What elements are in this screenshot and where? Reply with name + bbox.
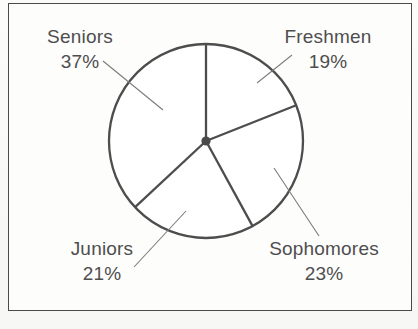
pie-center-dot xyxy=(201,136,210,145)
pie-chart-figure: Seniors 37% Freshmen 19% Juniors 21% Sop… xyxy=(0,0,418,329)
slice-label-freshmen-percent: 19% xyxy=(266,49,390,74)
slice-label-sophomores: Sophomores 23% xyxy=(249,236,399,286)
slice-label-sophomores-percent: 23% xyxy=(249,261,399,286)
slice-label-freshmen: Freshmen 19% xyxy=(266,24,390,74)
slice-label-seniors: Seniors 37% xyxy=(28,24,132,74)
slice-label-seniors-name: Seniors xyxy=(47,26,113,47)
slice-label-juniors-percent: 21% xyxy=(50,261,154,286)
slice-label-seniors-percent: 37% xyxy=(28,49,132,74)
slice-label-juniors: Juniors 21% xyxy=(50,236,154,286)
slice-label-sophomores-name: Sophomores xyxy=(269,238,379,259)
slice-label-juniors-name: Juniors xyxy=(71,238,134,259)
slice-label-freshmen-name: Freshmen xyxy=(284,26,371,47)
